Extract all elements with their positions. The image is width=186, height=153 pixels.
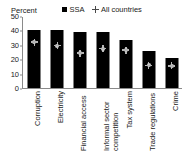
x-axis-category-labels: CorruptionElectricityFinancial accessInf… [23, 91, 183, 153]
marker-dot [124, 48, 128, 52]
bar-group [137, 17, 160, 88]
bar-group [92, 17, 115, 88]
diamond-cross-marker-icon [92, 6, 99, 13]
chart-container: Percent SSA All countries 01020304050 Co… [0, 0, 186, 153]
x-axis-tick-label: Crime [172, 91, 181, 111]
marker-dot [78, 51, 82, 55]
marker-dot [170, 64, 174, 68]
marker-all-countries [31, 39, 38, 46]
y-axis-tick-mark [20, 74, 22, 75]
x-axis-line [22, 88, 182, 89]
legend-item-ssa: SSA [62, 5, 85, 14]
bar-ssa [74, 32, 87, 88]
marker-dot [32, 40, 36, 44]
y-axis-tick-mark [20, 17, 22, 18]
bar-ssa [142, 51, 155, 88]
x-axis-label-slot: Trade regulations [137, 91, 160, 153]
y-axis-tick-mark [20, 60, 22, 61]
plot-area: 01020304050 [22, 17, 182, 89]
marker-all-countries [77, 50, 84, 57]
x-axis-label-slot: Corruption [23, 91, 46, 153]
bar-ssa [51, 30, 64, 88]
bar-group [114, 17, 137, 88]
marker-dot [55, 44, 59, 48]
legend-label-all-countries: All countries [101, 5, 142, 14]
x-axis-tick-label: Tax system [126, 91, 135, 129]
y-axis-tick-mark [20, 89, 22, 90]
x-axis-tick-label: Corruption [34, 91, 43, 126]
y-axis-tick-mark [20, 31, 22, 32]
y-axis-tick-label: 20 [11, 56, 19, 64]
x-axis-label-slot: Informal sector competition [92, 91, 115, 153]
bars-layer [23, 17, 182, 88]
x-axis-label-slot: Tax system [114, 91, 137, 153]
bar-group [46, 17, 69, 88]
y-axis-tick-label: 10 [11, 71, 19, 79]
marker-all-countries [145, 62, 152, 69]
legend-item-all-countries: All countries [92, 5, 142, 14]
legend-label-ssa: SSA [70, 5, 85, 14]
filled-square-marker-icon [62, 7, 67, 12]
bar-group [160, 17, 183, 88]
marker-all-countries [54, 42, 61, 49]
x-axis-label-slot: Crime [160, 91, 183, 153]
marker-all-countries [99, 45, 106, 52]
bar-ssa [96, 32, 109, 88]
marker-dot [101, 47, 105, 51]
y-axis-tick-label: 30 [11, 42, 19, 50]
bar-group [69, 17, 92, 88]
chart-legend: SSA All countries [62, 5, 142, 14]
marker-dot [147, 63, 151, 67]
y-axis-tick-label: 0 [15, 85, 19, 93]
x-axis-tick-label: Financial access [80, 91, 89, 151]
y-axis-tick-label: 50 [11, 13, 19, 21]
marker-all-countries [122, 47, 129, 54]
y-axis-tick-mark [20, 45, 22, 46]
x-axis-tick-label: Electricity [57, 91, 66, 123]
x-axis-label-slot: Financial access [69, 91, 92, 153]
bar-group [23, 17, 46, 88]
marker-all-countries [168, 62, 175, 69]
x-axis-tick-label: Trade regulations [149, 91, 158, 151]
y-axis-tick-label: 40 [11, 27, 19, 35]
x-axis-label-slot: Electricity [46, 91, 69, 153]
